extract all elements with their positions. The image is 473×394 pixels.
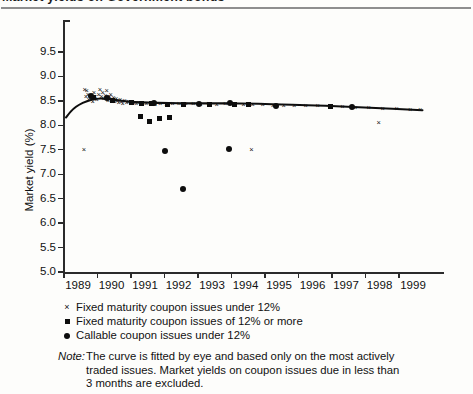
data-point-cross: × [407, 106, 414, 114]
legend: × Fixed maturity coupon issues under 12%… [60, 300, 460, 342]
data-point-cross: × [248, 146, 255, 154]
data-point-cross: × [365, 104, 372, 112]
square-marker-icon [61, 314, 73, 328]
data-point-cross: × [259, 101, 266, 109]
data-point-square [328, 104, 333, 109]
circle-marker-icon [61, 328, 73, 342]
data-point-square [165, 102, 170, 107]
data-point-square [138, 114, 143, 119]
data-point-square [207, 102, 212, 107]
note-line: The curve is fitted by eye and based onl… [86, 350, 456, 364]
legend-item-callable-under-12: Callable coupon issues under 12% [60, 328, 460, 342]
note-line: traded issues. Market yields on coupon i… [86, 364, 456, 378]
data-point-square [167, 115, 172, 120]
data-point-cross: × [302, 102, 309, 110]
data-point-cross: × [314, 102, 321, 110]
data-point-cross: × [339, 103, 346, 111]
data-point-square [246, 102, 251, 107]
data-point-cross: × [375, 119, 382, 127]
data-point-cross: × [80, 146, 87, 154]
legend-label: Fixed maturity coupon issues of 12% or m… [76, 315, 303, 327]
note-label: Note: [58, 350, 85, 364]
note-body: The curve is fitted by eye and based onl… [86, 350, 456, 391]
data-point-cross: × [280, 102, 287, 110]
data-point-square [157, 116, 162, 121]
legend-label: Callable coupon issues under 12% [76, 329, 250, 341]
data-point-square [139, 101, 144, 106]
figure-note: Note: The curve is fitted by eye and bas… [86, 350, 456, 391]
legend-item-fixed-under-12: × Fixed maturity coupon issues under 12% [60, 300, 460, 314]
data-point-cross: × [213, 101, 220, 109]
data-point-square [181, 102, 186, 107]
data-point-square [147, 119, 152, 124]
data-point-cross: × [291, 102, 298, 110]
data-point-square [110, 98, 115, 103]
legend-label: Fixed maturity coupon issues under 12% [76, 301, 280, 313]
data-point-circle [226, 146, 232, 152]
cross-marker-icon: × [61, 300, 73, 314]
data-point-cross: × [379, 105, 386, 113]
data-point-cross: × [417, 106, 424, 114]
note-line: 3 months are excluded. [86, 377, 456, 391]
data-point-circle [162, 148, 168, 154]
data-point-square [129, 100, 134, 105]
legend-item-fixed-12-or-more: Fixed maturity coupon issues of 12% or m… [60, 314, 460, 328]
chart-figure: Market yields on Government bonds Market… [0, 0, 473, 394]
data-point-cross: × [393, 105, 400, 113]
